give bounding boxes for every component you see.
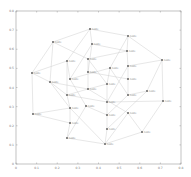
node-marker (87, 88, 89, 90)
node-label: node (130, 78, 137, 81)
node-label: node (109, 83, 116, 86)
x-tick-label: 0.6 (137, 166, 142, 170)
node-label: node (109, 114, 116, 117)
node-marker (66, 60, 68, 62)
y-tick-label: 0.5 (9, 66, 14, 70)
x-tick-label: 0.5 (117, 166, 122, 170)
node-label: node (72, 78, 79, 81)
node-label: node (69, 94, 76, 97)
node-label: node (130, 94, 137, 97)
x-tick-label: 0.2 (55, 166, 60, 170)
node-label: node (69, 60, 76, 63)
node-label: node (94, 43, 101, 46)
node-marker (141, 131, 143, 133)
y-tick-label: 0.8 (9, 9, 14, 13)
node-marker (106, 101, 108, 103)
node-label: node (130, 35, 137, 38)
node-marker (127, 65, 129, 67)
node-marker (69, 107, 71, 109)
node-marker (161, 59, 163, 61)
node-marker (127, 35, 129, 37)
node-marker (162, 100, 164, 102)
x-tick-label: 0.8 (179, 166, 184, 170)
node-marker (126, 50, 128, 52)
node-marker (49, 81, 51, 83)
y-tick-label: 0.1 (9, 143, 14, 147)
node-label: node (144, 131, 151, 134)
node-label: node (129, 50, 136, 53)
node-marker (109, 67, 111, 69)
node-marker (69, 78, 71, 80)
y-tick-label: 0 (12, 162, 14, 166)
x-tick-label: 0.1 (34, 166, 39, 170)
node-label: node (109, 128, 116, 131)
node-label: node (34, 72, 41, 75)
node-marker (87, 71, 89, 73)
y-tick-label: 0.2 (9, 124, 14, 128)
node-label: node (55, 41, 62, 44)
x-tick-label: 0.7 (158, 166, 163, 170)
x-tick-label: 0 (15, 166, 17, 170)
node-label: node (130, 112, 137, 115)
node-label: node (92, 28, 99, 31)
node-label: node (107, 143, 114, 146)
node-label: node (149, 90, 156, 93)
node-marker (127, 78, 129, 80)
x-tick-label: 0.4 (96, 166, 101, 170)
node-label: node (90, 88, 97, 91)
node-marker (52, 41, 54, 43)
node-marker (146, 90, 148, 92)
y-tick-label: 0.3 (9, 105, 14, 109)
node-marker (32, 113, 34, 115)
node-label: node (90, 71, 97, 74)
node-marker (31, 72, 33, 74)
network-plot: nodenodenodenodenodenodenodenodenodenode… (0, 0, 191, 177)
node-marker (106, 128, 108, 130)
node-label: node (130, 65, 137, 68)
node-label: node (52, 81, 59, 84)
node-label: node (72, 122, 79, 125)
y-tick-label: 0.7 (9, 28, 14, 32)
node-label: node (88, 105, 95, 108)
node-label: node (164, 59, 171, 62)
node-marker (89, 28, 91, 30)
node-label: node (165, 100, 172, 103)
node-label: node (35, 113, 42, 116)
node-marker (69, 122, 71, 124)
node-label: node (72, 107, 79, 110)
node-label: node (112, 67, 119, 70)
node-marker (85, 105, 87, 107)
y-tick-label: 0.6 (9, 47, 14, 51)
node-marker (87, 58, 89, 60)
x-tick-label: 0.3 (75, 166, 80, 170)
node-label: node (109, 101, 116, 104)
node-label: node (90, 58, 97, 61)
node-marker (91, 43, 93, 45)
node-marker (66, 94, 68, 96)
node-marker (127, 94, 129, 96)
node-label: node (69, 137, 76, 140)
node-marker (106, 83, 108, 85)
y-tick-label: 0.4 (9, 86, 14, 90)
plot-area (16, 11, 181, 164)
node-marker (127, 112, 129, 114)
node-marker (106, 114, 108, 116)
node-marker (66, 137, 68, 139)
node-marker (104, 143, 106, 145)
